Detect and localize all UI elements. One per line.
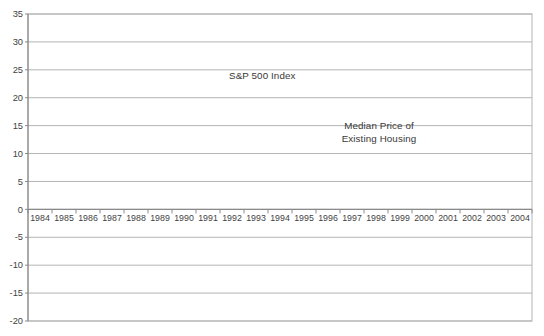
x-tick-label: 2000	[414, 213, 434, 223]
x-tick-label: 1992	[222, 213, 242, 223]
x-tick-label: 1993	[246, 213, 266, 223]
y-tick-label: -20	[10, 316, 23, 326]
x-tick-label: 1995	[294, 213, 314, 223]
y-tick-label: -15	[10, 288, 23, 298]
x-tick-label: 1989	[150, 213, 170, 223]
y-tick-label: 5	[18, 177, 23, 187]
x-axis: 1984198519861987198819891990199119921993…	[28, 209, 532, 223]
y-tick-label: 30	[13, 37, 23, 47]
x-tick-label: 1996	[318, 213, 338, 223]
x-tick-label: 2003	[486, 213, 506, 223]
x-tick-label: 1998	[366, 213, 386, 223]
x-tick-label: 2001	[438, 213, 458, 223]
x-tick-label: 1991	[198, 213, 218, 223]
x-tick-label: 1985	[54, 213, 74, 223]
y-tick-label: 15	[13, 121, 23, 131]
annotation-sp500-text: S&P 500 Index	[229, 70, 295, 81]
x-tick-label: 1986	[78, 213, 98, 223]
x-tick-label: 1988	[126, 213, 146, 223]
x-tick-label: 1994	[270, 213, 290, 223]
y-tick-label: 25	[13, 65, 23, 75]
x-tick-label: 2004	[510, 213, 530, 223]
y-tick-label: 20	[13, 93, 23, 103]
x-tick-label: 1990	[174, 213, 194, 223]
x-tick-label: 1987	[102, 213, 122, 223]
y-axis: -20-15-10-505101520253035	[10, 9, 28, 326]
x-tick-label: 2002	[462, 213, 482, 223]
plot-border	[28, 14, 532, 321]
y-tick-label: 35	[13, 9, 23, 19]
x-tick-label: 1997	[342, 213, 362, 223]
gridlines	[28, 14, 532, 321]
annotation-median-housing-label: Median Price of Existing Housing	[335, 120, 423, 145]
annotation-median-line2: Existing Housing	[335, 133, 423, 146]
y-tick-label: -5	[15, 232, 23, 242]
x-tick-label: 1999	[390, 213, 410, 223]
y-tick-label: -10	[10, 260, 23, 270]
x-tick-label: 1984	[30, 213, 50, 223]
sp500-vs-housing-figure: -20-15-10-505101520253035198419851986198…	[0, 0, 544, 336]
annotation-median-line1: Median Price of	[335, 120, 423, 133]
line-chart: -20-15-10-505101520253035198419851986198…	[0, 0, 544, 336]
annotation-sp500-label: S&P 500 Index	[229, 70, 295, 83]
y-tick-label: 10	[13, 149, 23, 159]
y-tick-label: 0	[18, 205, 23, 215]
